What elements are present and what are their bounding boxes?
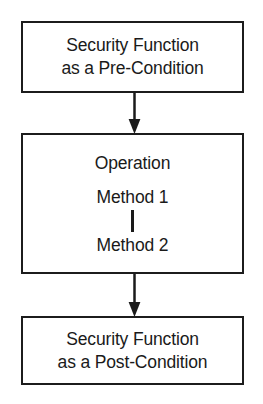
- node-pre-condition-line-2: as a Pre-Condition: [61, 57, 203, 80]
- method-connector-line: [131, 210, 134, 232]
- node-pre-condition: Security Function as a Pre-Condition: [21, 21, 244, 93]
- node-post-condition: Security Function as a Post-Condition: [21, 316, 244, 385]
- node-post-condition-line-2: as a Post-Condition: [58, 351, 208, 374]
- node-pre-condition-line-1: Security Function: [66, 34, 199, 57]
- arrow-operation-to-post-icon: [128, 274, 141, 317]
- flowchart-diagram: Security Function as a Pre-Condition Ope…: [0, 0, 263, 404]
- node-operation-method-1: Method 1: [97, 186, 169, 208]
- arrow-pre-to-operation-icon: [128, 93, 141, 134]
- node-operation-title: Operation: [95, 152, 171, 174]
- node-operation-method-2: Method 2: [97, 234, 169, 256]
- node-operation: Operation Method 1 Method 2: [21, 133, 244, 274]
- node-post-condition-line-1: Security Function: [66, 328, 199, 351]
